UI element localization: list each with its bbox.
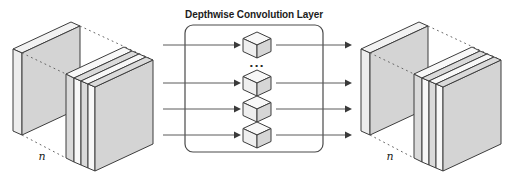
output-tensor xyxy=(361,22,501,171)
depthwise-convolution-figure: Depthwise Convolution Layer n n ... xyxy=(0,0,511,178)
diagram-canvas: Depthwise Convolution Layer n n ... xyxy=(0,0,511,178)
input-depth-label: n xyxy=(38,150,45,163)
omitted-kernels-ellipsis: ... xyxy=(249,57,265,70)
input-tensor xyxy=(13,22,153,171)
output-depth-label: n xyxy=(386,150,393,163)
layer-title: Depthwise Convolution Layer xyxy=(185,9,323,20)
